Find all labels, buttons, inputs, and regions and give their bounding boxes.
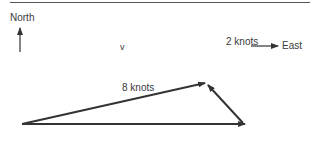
boat-speed-label: 8 knots [122, 82, 154, 93]
vector-diagram [0, 0, 317, 145]
current-vector [208, 85, 243, 123]
current-speed-label: 2 knots [226, 36, 258, 47]
east-label: East [282, 40, 302, 51]
north-label: North [10, 12, 34, 23]
velocity-label: v [120, 42, 125, 52]
resultant-vector [22, 83, 205, 124]
